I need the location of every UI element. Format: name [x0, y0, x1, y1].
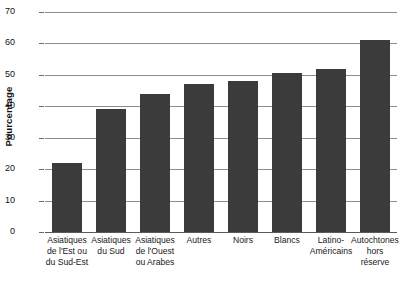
category-label: Autochtoneshorsréserve: [338, 235, 412, 269]
category-label-line: ou Arabes: [118, 257, 192, 268]
tick-mark-50: [39, 75, 44, 76]
y-tick-label-50: 50: [0, 69, 15, 79]
tick-mark-60: [39, 43, 44, 44]
tick-mark-40: [39, 106, 44, 107]
y-tick-label-10: 10: [0, 195, 15, 205]
category-label-line: réserve: [338, 257, 412, 268]
y-tick-label-60: 60: [0, 37, 15, 47]
tick-mark-0: [39, 232, 44, 233]
chart-caption-clipped: Origine ethnique: [0, 283, 420, 289]
bar: [360, 40, 390, 232]
category-label-line: du Sud-Est: [30, 257, 104, 268]
category-label-line: hors: [338, 246, 412, 257]
y-tick-label-20: 20: [0, 163, 15, 173]
y-tick-label-40: 40: [0, 100, 15, 110]
x-axis-category-labels: Asiatiquesde l'Est oudu Sud-EstAsiatique…: [38, 235, 410, 281]
bar: [316, 69, 346, 232]
y-tick-label-70: 70: [0, 6, 15, 16]
tick-mark-70: [39, 12, 44, 13]
category-label-line: Autochtones: [338, 235, 412, 246]
y-tick-label-30: 30: [0, 132, 15, 142]
category-label-line: de l'Ouest: [118, 246, 192, 257]
bar: [96, 109, 126, 232]
tick-mark-30: [39, 138, 44, 139]
bar: [140, 94, 170, 232]
bar: [272, 73, 302, 232]
bar: [184, 84, 214, 232]
y-tick-label-0: 0: [0, 226, 15, 236]
bars-group: [45, 12, 397, 232]
tick-mark-10: [39, 201, 44, 202]
plot-area: 010203040506070: [45, 12, 397, 232]
bar: [52, 163, 82, 232]
tick-mark-20: [39, 169, 44, 170]
gridline-0: [45, 232, 397, 233]
bar: [228, 81, 258, 232]
bar-chart-figure: Pourcentage 010203040506070 Asiatiquesde…: [0, 0, 420, 289]
